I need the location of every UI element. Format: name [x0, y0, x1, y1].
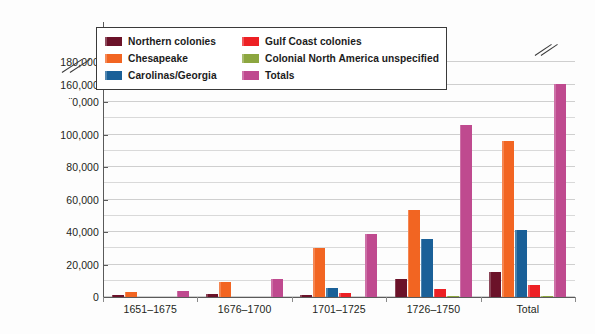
- y-tick-label: 0: [93, 291, 99, 303]
- x-tick-mark: [197, 297, 198, 302]
- x-tick-label: Total: [516, 303, 539, 315]
- x-tick-mark: [575, 297, 576, 302]
- legend-swatch: [105, 37, 122, 46]
- x-tick-mark: [481, 297, 482, 302]
- chart-legend: Northern coloniesGulf Coast coloniesChes…: [96, 27, 447, 90]
- bar-fill: [528, 285, 540, 297]
- legend-item: Chesapeake: [105, 53, 240, 64]
- bar: [271, 279, 283, 297]
- bar: [528, 285, 540, 297]
- x-tick-mark: [386, 297, 387, 302]
- bar: [515, 230, 527, 297]
- legend-swatch: [242, 37, 259, 46]
- y-tick-label: 160,000: [60, 79, 99, 91]
- bar: [219, 282, 231, 297]
- legend-item: Totals: [242, 70, 439, 81]
- bar: [395, 279, 407, 297]
- bar-chart: 020,00040,00060,00080,000100,000¨0,00016…: [0, 0, 595, 334]
- legend-item: Northern colonies: [105, 36, 240, 47]
- bar-fill: [271, 279, 283, 297]
- legend-label: Northern colonies: [128, 36, 216, 47]
- y-tick-label: 20,000: [66, 259, 99, 271]
- y-tick-mark: [103, 200, 108, 201]
- bar-fill: [313, 248, 325, 297]
- bar-fill: [421, 239, 433, 297]
- bar: [365, 234, 377, 297]
- bar: [460, 125, 472, 297]
- legend-label: Totals: [265, 70, 295, 81]
- y-tick-mark: [103, 265, 108, 266]
- y-tick-mark: [103, 167, 108, 168]
- y-tick-label: ¨0,000: [69, 96, 99, 108]
- x-tick-mark: [292, 297, 293, 302]
- bar-fill: [460, 125, 472, 297]
- bar: [326, 288, 338, 297]
- legend-swatch: [105, 71, 122, 80]
- bar: [408, 210, 420, 297]
- bar: [313, 248, 325, 297]
- y-tick-label: 40,000: [66, 226, 99, 238]
- legend-label: Colonial North America unspecified: [265, 53, 439, 64]
- y-tick-label: 60,000: [66, 194, 99, 206]
- legend-label: Chesapeake: [128, 53, 188, 64]
- legend-label: Gulf Coast colonies: [265, 36, 362, 47]
- bar-fill: [502, 141, 514, 297]
- legend-label: Carolinas/Georgia: [128, 70, 217, 81]
- bar: [421, 239, 433, 297]
- y-axis-tick-labels: 020,00040,00060,00080,000100,000¨0,00016…: [0, 22, 99, 297]
- bar-fill: [219, 282, 231, 297]
- bar: [489, 272, 501, 297]
- bar: [554, 84, 566, 297]
- bar-fill: [365, 234, 377, 297]
- legend-item: Gulf Coast colonies: [242, 36, 439, 47]
- legend-item: Carolinas/Georgia: [105, 70, 240, 81]
- x-tick-label: 1701–1725: [312, 303, 365, 315]
- y-tick-mark: [103, 135, 108, 136]
- bar: [502, 141, 514, 297]
- bar-fill: [489, 272, 501, 297]
- bar-fill: [395, 279, 407, 297]
- legend-swatch: [242, 54, 259, 63]
- y-tick-label: 80,000: [66, 161, 99, 173]
- x-tick-label: 1651–1675: [123, 303, 176, 315]
- bar-group: [481, 22, 575, 297]
- bar-fill: [408, 210, 420, 297]
- y-tick-mark: [103, 102, 108, 103]
- bar-fill: [554, 84, 566, 297]
- legend-swatch: [242, 71, 259, 80]
- legend-item: Colonial North America unspecified: [242, 53, 439, 64]
- y-tick-mark: [103, 232, 108, 233]
- x-tick-label: 1676–1700: [218, 303, 271, 315]
- bar: [434, 289, 446, 297]
- legend-swatch: [105, 54, 122, 63]
- y-tick-label: 100,000: [60, 129, 99, 141]
- bar-fill: [326, 288, 338, 297]
- y-tick-label: 180,000: [60, 56, 99, 68]
- x-tick-mark: [103, 297, 104, 302]
- x-tick-label: 1726–1750: [407, 303, 460, 315]
- x-axis-line: [103, 297, 576, 298]
- bar-fill: [434, 289, 446, 297]
- bar-fill: [515, 230, 527, 297]
